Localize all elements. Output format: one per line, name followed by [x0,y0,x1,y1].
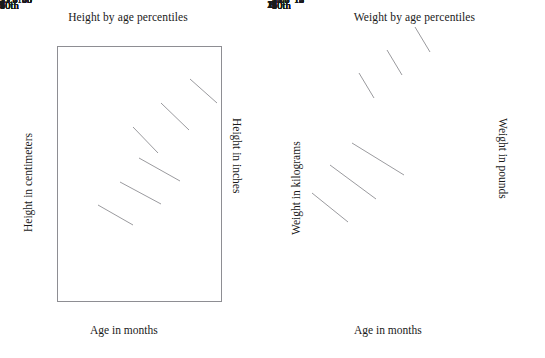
weight-x-axis-title: Age in months [354,324,422,336]
growth-charts-figure: Height by age percentiles 4015.74517.750… [0,0,545,358]
weight-chart-panel: Weight by age percentiles 24.436.648.851… [272,0,545,358]
height-chart-panel: Height by age percentiles 4015.74517.750… [0,0,272,358]
weight-y-axis-title: Weight in kilograms [290,141,302,235]
percentile-label: 10th [0,0,19,11]
weight-y2-axis-title: Weight in pounds [497,118,509,199]
height-plot-area [57,46,222,302]
height-x-axis-title: Age in months [90,324,158,336]
height-chart-title: Height by age percentiles [0,11,264,23]
height-plot-svg [58,47,221,301]
percentile-label: 10th [272,0,291,11]
height-y2-axis-title: Height in inches [231,118,243,193]
height-y-axis-title: Height in centimeters [22,133,34,232]
weight-chart-title: Weight by age percentiles [278,11,545,23]
